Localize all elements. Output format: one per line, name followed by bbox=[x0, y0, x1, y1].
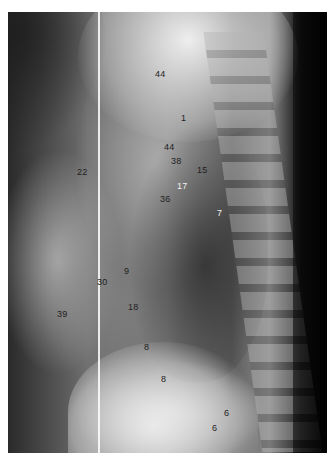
anatomy-label: 44 bbox=[164, 143, 174, 152]
anatomy-label: 30 bbox=[97, 278, 107, 287]
vertical-marker-line bbox=[98, 12, 100, 453]
anatomy-label: 38 bbox=[171, 157, 181, 166]
anatomy-label: 44 bbox=[155, 70, 165, 79]
lateral-chest-xray: 44 1 44 38 15 17 22 36 7 9 30 18 39 8 8 … bbox=[8, 12, 327, 453]
anatomy-label: 6 bbox=[224, 409, 229, 418]
anatomy-label: 7 bbox=[217, 209, 222, 218]
anatomy-label: 8 bbox=[161, 375, 166, 384]
anatomy-label: 17 bbox=[177, 182, 187, 191]
anatomy-label: 18 bbox=[128, 303, 138, 312]
anatomy-label: 9 bbox=[124, 267, 129, 276]
anatomy-label: 1 bbox=[181, 114, 186, 123]
posterior-air bbox=[293, 12, 327, 453]
anatomy-label: 39 bbox=[57, 310, 67, 319]
anatomy-label: 22 bbox=[77, 168, 87, 177]
anatomy-label: 15 bbox=[197, 166, 207, 175]
anatomy-label: 8 bbox=[144, 343, 149, 352]
anatomy-label: 6 bbox=[212, 424, 217, 433]
anatomy-label: 36 bbox=[160, 195, 170, 204]
